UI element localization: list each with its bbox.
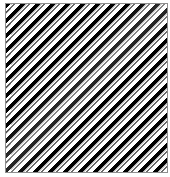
diagonal-stripe-fill bbox=[6, 4, 167, 172]
left-margin bbox=[0, 0, 5, 177]
striped-panel bbox=[5, 3, 168, 173]
image-canvas bbox=[0, 0, 170, 177]
